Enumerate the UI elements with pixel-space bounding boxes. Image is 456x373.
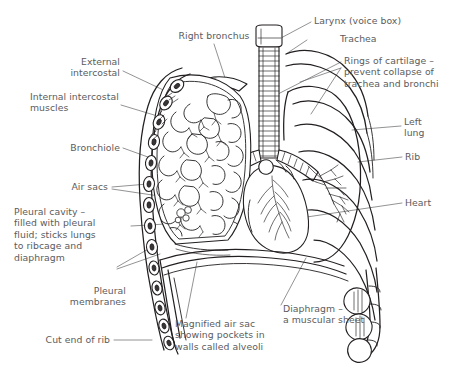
trachea-group <box>256 25 282 158</box>
label-cut-end-of-rib: Cut end of rib <box>18 334 110 345</box>
label-left-lung: Left lung <box>404 116 454 139</box>
label-bronchiole: Bronchiole <box>28 142 120 153</box>
rib-oval <box>144 218 156 233</box>
label-larynx: Larynx (voice box) <box>314 15 454 26</box>
label-trachea: Trachea <box>340 33 450 44</box>
label-air-sacs: Air sacs <box>28 181 108 192</box>
label-rib: Rib <box>405 151 451 162</box>
diagram-page: .ln { fill:none; stroke:#231f20; stroke-… <box>0 0 456 373</box>
label-pleural-cavity: Pleural cavity – filled with pleural flu… <box>14 206 132 263</box>
label-magnified-air-sac: Magnified air sac showing pockets in wal… <box>175 318 291 352</box>
label-diaphragm: Diaphragm – a muscular sheet <box>283 303 383 326</box>
label-right-bronchus: Right bronchus <box>160 30 268 41</box>
label-internal-intercostal-muscles: Internal intercostal muscles <box>30 91 150 114</box>
label-heart: Heart <box>405 197 455 208</box>
label-pleural-membranes: Pleural membranes <box>26 285 126 308</box>
label-rings-of-cartilage: Rings of cartilage – prevent collapse of… <box>344 55 456 89</box>
rib-oval <box>143 176 155 192</box>
heart-group <box>243 160 308 253</box>
rib-oval <box>144 198 155 213</box>
label-external-intercostal: External intercostal <box>20 56 120 79</box>
